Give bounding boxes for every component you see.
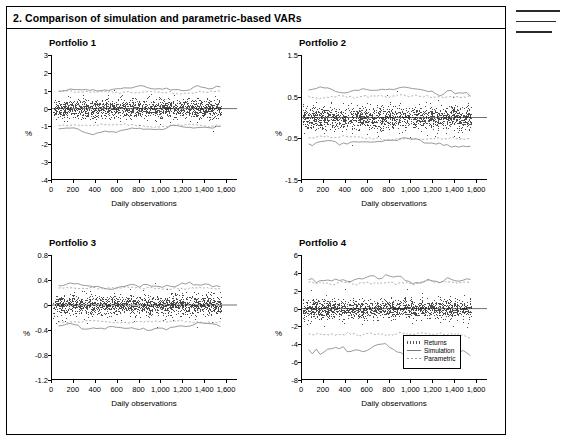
panel-title: Portfolio 4 bbox=[299, 237, 346, 248]
y-tick-label: 1.5 bbox=[273, 51, 298, 60]
legend-key-dots bbox=[407, 339, 421, 345]
x-tick-label: 600 bbox=[110, 385, 123, 394]
y-tick-label: -0.5 bbox=[273, 134, 298, 143]
x-tick-mark bbox=[389, 180, 390, 183]
x-tick-mark bbox=[95, 180, 96, 183]
x-tick-label: 600 bbox=[360, 385, 373, 394]
x-tick-label: 200 bbox=[67, 185, 80, 194]
panel-portfolio-2: Portfolio 2 % Daily observations -1.5-0.… bbox=[257, 29, 507, 229]
var-lines bbox=[52, 55, 237, 180]
text-line bbox=[516, 31, 552, 33]
var-lines bbox=[302, 55, 487, 180]
y-tick-mark bbox=[48, 305, 51, 306]
y-tick-label: 0 bbox=[273, 304, 298, 313]
y-tick-label: -4 bbox=[23, 176, 48, 185]
legend-label: Returns bbox=[424, 339, 447, 346]
x-tick-mark bbox=[476, 180, 477, 183]
legend-item-simulation: Simulation bbox=[407, 346, 457, 354]
text-line bbox=[516, 10, 560, 12]
x-tick-mark bbox=[226, 380, 227, 383]
x-tick-mark bbox=[182, 380, 183, 383]
y-tick-label: 3 bbox=[23, 51, 48, 60]
x-tick-mark bbox=[73, 180, 74, 183]
chart-legend: Returns Simulation Parametric bbox=[403, 335, 461, 369]
y-tick-mark bbox=[48, 162, 51, 163]
x-axis-label: Daily observations bbox=[51, 399, 237, 408]
panel-portfolio-3: Portfolio 3 % Daily observations -1.2-0.… bbox=[7, 229, 257, 434]
y-tick-label: -0.8 bbox=[23, 351, 48, 360]
y-tick-label: -8 bbox=[273, 376, 298, 385]
y-tick-mark bbox=[298, 309, 301, 310]
y-tick-label: -2 bbox=[273, 322, 298, 331]
x-tick-label: 1,200 bbox=[173, 385, 192, 394]
x-tick-label: 1,400 bbox=[445, 185, 464, 194]
x-tick-label: 1,200 bbox=[173, 185, 192, 194]
panel-title: Portfolio 1 bbox=[49, 37, 96, 48]
legend-label: Simulation bbox=[424, 347, 454, 354]
x-tick-label: 1,000 bbox=[401, 385, 420, 394]
plot-area-1 bbox=[51, 55, 237, 180]
x-axis-label: Daily observations bbox=[51, 199, 237, 208]
x-tick-label: 1,000 bbox=[401, 185, 420, 194]
x-tick-label: 600 bbox=[110, 185, 123, 194]
y-tick-label: 2 bbox=[23, 68, 48, 77]
x-tick-mark bbox=[345, 380, 346, 383]
panel-portfolio-4: Portfolio 4 % Daily observations Returns… bbox=[257, 229, 507, 434]
var-lines bbox=[52, 255, 237, 380]
y-tick-mark bbox=[48, 91, 51, 92]
figure-box: 2. Comparison of simulation and parametr… bbox=[6, 6, 506, 435]
x-tick-mark bbox=[117, 180, 118, 183]
x-tick-mark bbox=[95, 380, 96, 383]
x-tick-label: 400 bbox=[88, 385, 101, 394]
y-tick-mark bbox=[48, 330, 51, 331]
plot-area-2 bbox=[301, 55, 487, 180]
x-tick-mark bbox=[160, 180, 161, 183]
x-tick-mark bbox=[454, 380, 455, 383]
x-tick-mark bbox=[367, 180, 368, 183]
legend-item-returns: Returns bbox=[407, 338, 457, 346]
panel-title: Portfolio 3 bbox=[49, 237, 96, 248]
y-tick-label: -1 bbox=[23, 122, 48, 131]
page-root: 2. Comparison of simulation and parametr… bbox=[0, 0, 564, 441]
y-tick-label: 4 bbox=[273, 268, 298, 277]
x-tick-label: 1,600 bbox=[467, 385, 486, 394]
y-tick-mark bbox=[48, 255, 51, 256]
figure-title: 2. Comparison of simulation and parametr… bbox=[7, 7, 505, 29]
x-tick-mark bbox=[182, 180, 183, 183]
y-tick-mark bbox=[298, 273, 301, 274]
y-tick-mark bbox=[48, 355, 51, 356]
x-tick-mark bbox=[51, 180, 52, 183]
x-tick-mark bbox=[367, 380, 368, 383]
y-tick-mark bbox=[298, 255, 301, 256]
x-tick-label: 400 bbox=[338, 185, 351, 194]
x-tick-label: 800 bbox=[382, 185, 395, 194]
x-tick-mark bbox=[476, 380, 477, 383]
x-axis-label: Daily observations bbox=[301, 199, 487, 208]
legend-item-parametric: Parametric bbox=[407, 354, 457, 362]
y-tick-label: 0 bbox=[23, 301, 48, 310]
x-tick-mark bbox=[454, 180, 455, 183]
x-tick-mark bbox=[301, 180, 302, 183]
x-tick-mark bbox=[117, 380, 118, 383]
text-line bbox=[516, 21, 556, 23]
y-tick-mark bbox=[298, 55, 301, 56]
x-axis-label: Daily observations bbox=[301, 399, 487, 408]
x-tick-label: 1,000 bbox=[151, 385, 170, 394]
x-tick-mark bbox=[432, 180, 433, 183]
y-tick-label: -1.5 bbox=[273, 176, 298, 185]
x-tick-label: 1,400 bbox=[195, 185, 214, 194]
x-tick-label: 200 bbox=[317, 385, 330, 394]
y-tick-label: 0.4 bbox=[23, 276, 48, 285]
y-tick-label: -2 bbox=[23, 140, 48, 149]
x-tick-label: 400 bbox=[338, 385, 351, 394]
x-tick-mark bbox=[139, 180, 140, 183]
y-tick-label: 0.8 bbox=[23, 251, 48, 260]
x-tick-label: 800 bbox=[132, 385, 145, 394]
x-tick-mark bbox=[51, 380, 52, 383]
plot-area-3 bbox=[51, 255, 237, 380]
x-tick-mark bbox=[432, 380, 433, 383]
x-tick-mark bbox=[160, 380, 161, 383]
x-tick-label: 1,600 bbox=[217, 185, 236, 194]
x-tick-mark bbox=[389, 380, 390, 383]
x-tick-label: 0 bbox=[49, 185, 53, 194]
